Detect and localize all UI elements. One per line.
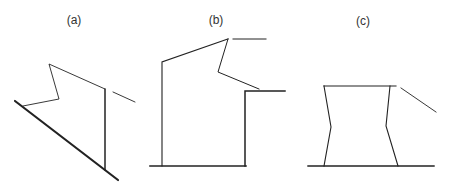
panel-b-ledge-and-right-wall xyxy=(245,91,285,166)
diagram-canvas xyxy=(0,0,455,183)
panel-b-zigzag-line xyxy=(218,39,259,89)
panel-c-detached-segment xyxy=(401,88,436,112)
panel-b-left-wall-and-roof xyxy=(162,39,228,166)
panel-a-zigzag-line xyxy=(23,64,105,106)
panel-c-left-side xyxy=(324,86,331,166)
panel-a xyxy=(15,64,135,180)
panel-b xyxy=(150,39,285,166)
panel-c-right-side xyxy=(386,86,398,166)
panel-c xyxy=(308,86,436,166)
panel-a-ground-line xyxy=(15,101,118,180)
panel-a-detached-segment xyxy=(113,92,135,102)
